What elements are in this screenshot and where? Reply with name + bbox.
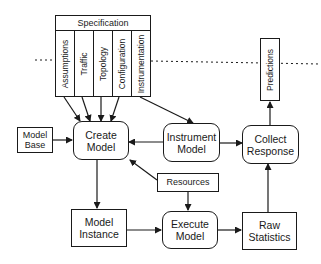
specification-title: Specification	[56, 16, 150, 31]
resources-box: Resources	[157, 173, 219, 192]
model-instance-box: Model Instance	[71, 209, 127, 247]
predictions-label: Predictions	[265, 48, 275, 90]
collect-response-node: Collect Response	[242, 125, 299, 164]
execute-model-node: Execute Model	[162, 211, 218, 249]
spec-column-configuration: Configuration	[113, 31, 132, 97]
spec-column-traffic: Traffic	[75, 31, 94, 97]
specification-box: Specification Assumptions Traffic Topolo…	[55, 15, 151, 97]
dotted-separator-right	[151, 61, 320, 64]
spec-column-instrumentation: Instrumentation	[132, 31, 150, 97]
predictions-box: Predictions	[260, 38, 280, 101]
create-model-node: Create Model	[73, 121, 129, 160]
spec-column-topology: Topology	[94, 31, 113, 97]
spec-column-assumptions: Assumptions	[56, 31, 75, 97]
instrument-model-node: Instrument Model	[163, 123, 220, 162]
model-base-box: Model Base	[17, 127, 53, 153]
raw-statistics-box: Raw Statistics	[242, 212, 297, 250]
